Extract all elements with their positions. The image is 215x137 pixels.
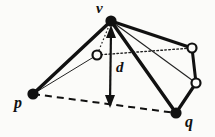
edge-p-q-dashed — [33, 94, 176, 113]
node-c2-hollow — [188, 44, 197, 53]
distance-arrowhead-down — [105, 95, 115, 108]
distance-label-d: d — [116, 60, 124, 75]
node-p-filled — [27, 88, 38, 99]
distance-arrow-shaft — [110, 31, 111, 103]
figure-canvas: v p q d — [0, 0, 215, 137]
node-q-filled — [170, 107, 181, 118]
vertex-label-q: q — [185, 114, 193, 130]
edge-v-c2-thick — [111, 21, 192, 48]
node-v-filled — [105, 15, 116, 26]
vertex-label-v: v — [96, 1, 103, 16]
diagram-svg — [0, 0, 215, 137]
edge-p-c1-thin — [33, 55, 97, 94]
node-c3-hollow — [192, 79, 201, 88]
node-c1-hollow — [93, 51, 102, 60]
vertex-label-p: p — [14, 95, 22, 111]
